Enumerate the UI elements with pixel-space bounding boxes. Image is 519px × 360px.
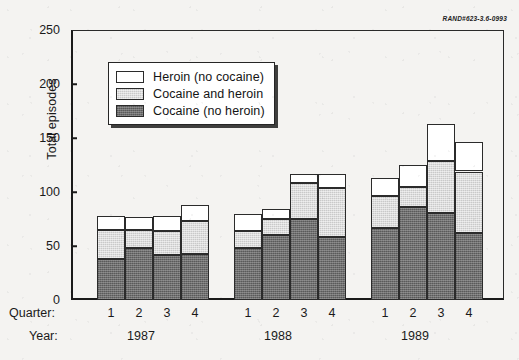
- bar-segment-cocaine-and-heroin: [153, 231, 181, 255]
- bar-segment-heroin-no-cocaine: [181, 205, 209, 221]
- quarter-label-1989-q2: 2: [410, 306, 417, 320]
- bar-segment-cocaine-and-heroin: [290, 183, 318, 219]
- legend-label-cocaine-and-heroin: Cocaine and heroin: [153, 87, 263, 101]
- bar-segment-cocaine-no-heroin: [234, 248, 262, 300]
- quarter-label-1987-q3: 3: [164, 306, 171, 320]
- x-axis: Quarter: Year: 123412341234198719881989: [0, 300, 519, 360]
- bar-segment-heroin-no-cocaine: [318, 174, 346, 188]
- bar-segment-heroin-no-cocaine: [290, 174, 318, 184]
- bar-segment-cocaine-no-heroin: [455, 233, 483, 300]
- bar-1987-q2: [125, 217, 153, 300]
- bar-segment-cocaine-no-heroin: [318, 237, 346, 300]
- legend-label-heroin-no-cocaine: Heroin (no cocaine): [153, 70, 264, 84]
- quarter-label-1988-q2: 2: [273, 306, 280, 320]
- bar-segment-cocaine-and-heroin: [427, 161, 455, 213]
- bar-segment-cocaine-and-heroin: [399, 187, 427, 208]
- bar-1988-q2: [262, 209, 290, 300]
- bar-1988-q3: [290, 174, 318, 300]
- rand-credit-line: RAND#623-3.6-0993: [443, 15, 507, 22]
- bar-segment-cocaine-no-heroin: [371, 228, 399, 300]
- quarter-label-1987-q2: 2: [136, 306, 143, 320]
- year-label-1988: 1988: [264, 329, 292, 343]
- bar-segment-cocaine-and-heroin: [371, 196, 399, 227]
- bar-segment-cocaine-and-heroin: [234, 231, 262, 248]
- legend-item-heroin-no-cocaine: Heroin (no cocaine): [116, 68, 265, 85]
- bar-segment-heroin-no-cocaine: [371, 178, 399, 196]
- bar-1989-q2: [399, 165, 427, 300]
- bar-segment-cocaine-and-heroin: [455, 172, 483, 234]
- bar-segment-heroin-no-cocaine: [97, 216, 125, 230]
- year-label-1987: 1987: [127, 329, 155, 343]
- bar-1987-q1: [97, 216, 125, 300]
- legend-swatch-cocaine-no-heroin: [116, 105, 144, 117]
- y-tick-label-250: 250: [39, 23, 60, 37]
- legend-item-cocaine-and-heroin: Cocaine and heroin: [116, 85, 265, 102]
- bar-segment-cocaine-and-heroin: [318, 188, 346, 238]
- y-tick-label-50: 50: [46, 239, 60, 253]
- bar-segment-cocaine-no-heroin: [262, 235, 290, 300]
- bar-1987-q3: [153, 216, 181, 300]
- bar-segment-heroin-no-cocaine: [399, 165, 427, 187]
- quarter-label-1988-q4: 4: [329, 306, 336, 320]
- bar-segment-heroin-no-cocaine: [455, 142, 483, 171]
- bar-segment-heroin-no-cocaine: [153, 216, 181, 231]
- quarter-label-1988-q1: 1: [245, 306, 252, 320]
- chart-legend: Heroin (no cocaine) Cocaine and heroin C…: [108, 62, 275, 125]
- year-label-1989: 1989: [401, 329, 429, 343]
- bar-segment-cocaine-no-heroin: [153, 255, 181, 300]
- bar-segment-cocaine-and-heroin: [97, 230, 125, 259]
- bar-1987-q4: [181, 205, 209, 300]
- figure-root: RAND#623-3.6-0993 250 200 150 100 50 0 T…: [0, 0, 519, 360]
- bar-1989-q4: [455, 142, 483, 300]
- quarter-label-1989-q4: 4: [466, 306, 473, 320]
- year-row-label: Year:: [29, 329, 58, 343]
- bar-segment-cocaine-no-heroin: [290, 219, 318, 300]
- quarter-label-1988-q3: 3: [301, 306, 308, 320]
- quarter-row-label: Quarter:: [9, 306, 55, 320]
- bar-segment-heroin-no-cocaine: [262, 209, 290, 219]
- bar-1988-q1: [234, 214, 262, 300]
- bar-segment-cocaine-and-heroin: [262, 219, 290, 235]
- quarter-label-1987-q4: 4: [192, 306, 199, 320]
- legend-swatch-heroin-no-cocaine: [116, 71, 144, 83]
- bar-segment-heroin-no-cocaine: [125, 217, 153, 230]
- legend-swatch-cocaine-and-heroin: [116, 88, 144, 100]
- bar-segment-cocaine-no-heroin: [97, 259, 125, 300]
- bar-1989-q1: [371, 178, 399, 300]
- bar-segment-cocaine-no-heroin: [427, 213, 455, 300]
- bar-1989-q3: [427, 124, 455, 300]
- bar-1988-q4: [318, 174, 346, 300]
- bar-segment-heroin-no-cocaine: [427, 124, 455, 161]
- bar-segment-cocaine-and-heroin: [125, 230, 153, 248]
- legend-label-cocaine-no-heroin: Cocaine (no heroin): [153, 104, 265, 118]
- y-axis-title: Total episodes: [45, 49, 59, 189]
- legend-item-cocaine-no-heroin: Cocaine (no heroin): [116, 102, 265, 119]
- bar-segment-cocaine-no-heroin: [181, 254, 209, 300]
- bar-segment-cocaine-no-heroin: [399, 207, 427, 300]
- quarter-label-1989-q3: 3: [438, 306, 445, 320]
- bar-segment-cocaine-no-heroin: [125, 248, 153, 300]
- bar-segment-cocaine-and-heroin: [181, 221, 209, 253]
- quarter-label-1987-q1: 1: [108, 306, 115, 320]
- bar-segment-heroin-no-cocaine: [234, 214, 262, 231]
- quarter-label-1989-q1: 1: [382, 306, 389, 320]
